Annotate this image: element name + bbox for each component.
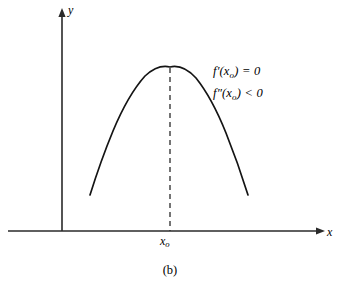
second-derivative-prime: ″: [217, 86, 222, 100]
x0-tick-label-subscript: o: [165, 239, 169, 249]
figure-container: y x xo f′(xo) = 0 f″(xo) < 0 (b): [0, 0, 340, 286]
first-derivative-prime: ′: [217, 64, 220, 78]
x0-tick-label: xo: [160, 235, 170, 249]
x-axis-label: x: [327, 226, 332, 238]
y-axis-arrowhead: [58, 8, 65, 17]
first-derivative-relation: = 0: [242, 64, 260, 78]
second-derivative-annotation: f″(xo) < 0: [213, 87, 263, 102]
second-derivative-relation: < 0: [244, 86, 262, 100]
first-derivative-arg-subscript: o: [230, 70, 235, 80]
second-derivative-arg-subscript: o: [232, 92, 237, 102]
y-axis-label: y: [68, 4, 73, 16]
x-axis-arrowhead: [316, 227, 325, 234]
figure-caption: (b): [0, 264, 340, 277]
plot-area: [0, 0, 340, 286]
first-derivative-annotation: f′(xo) = 0: [213, 65, 260, 80]
